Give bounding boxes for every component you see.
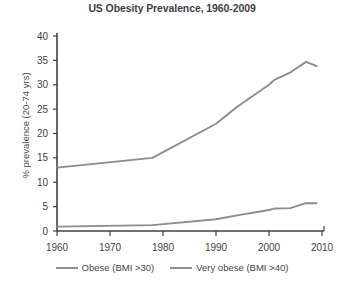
y-tick-label: 5 [42, 201, 48, 212]
legend-item-very-obese[interactable]: Very obese (BMI >40) [170, 262, 288, 273]
x-tick-label: 1990 [205, 242, 228, 253]
legend-item-obese[interactable]: Obese (BMI >30) [56, 262, 155, 273]
y-tick-label: 25 [37, 104, 49, 115]
x-tick-label: 1970 [99, 242, 122, 253]
y-tick-label: 40 [37, 31, 49, 42]
x-tick-label: 2010 [311, 242, 334, 253]
y-tick-label: 10 [37, 177, 49, 188]
legend-swatch-obese [56, 267, 78, 269]
legend-swatch-very-obese [170, 267, 192, 269]
obesity-prevalence-chart: US Obesity Prevalence, 1960-2009 % preva… [0, 0, 344, 291]
legend-label-very-obese: Very obese (BMI >40) [196, 262, 288, 273]
y-tick-label: 20 [37, 128, 49, 139]
x-tick-label: 1960 [46, 242, 69, 253]
x-axis-tick-group: 196019701980199020002010 [46, 231, 334, 253]
series-line-very-obese [57, 203, 317, 226]
series-line-obese [57, 62, 317, 168]
y-tick-label: 35 [37, 55, 49, 66]
series-group [57, 62, 317, 227]
x-tick-label: 1980 [152, 242, 175, 253]
y-tick-label: 30 [37, 79, 49, 90]
plot-area: 0510152025303540 19601970198019902000201… [0, 0, 344, 260]
y-axis-tick-group: 0510152025303540 [37, 31, 57, 237]
legend-label-obese: Obese (BMI >30) [82, 262, 155, 273]
y-tick-label: 0 [42, 226, 48, 237]
y-tick-label: 15 [37, 152, 49, 163]
chart-legend: Obese (BMI >30) Very obese (BMI >40) [0, 262, 344, 273]
x-tick-label: 2000 [258, 242, 281, 253]
